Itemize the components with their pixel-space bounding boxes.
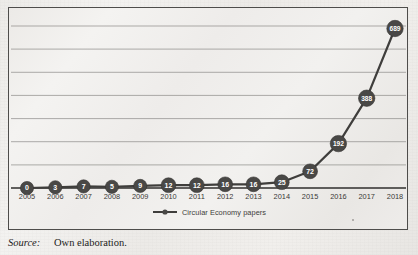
x-axis-tick-label: 2010 (160, 192, 176, 201)
x-axis-tick-label: 2017 (358, 192, 374, 201)
figure-caption: Source: Own elaboration. (8, 237, 410, 248)
data-point-label: 0 (25, 184, 29, 191)
x-axis-tick-label: 2014 (274, 192, 290, 201)
data-point-label: 3 (53, 184, 57, 191)
x-axis-tick-label: 2013 (245, 192, 261, 201)
legend-marker-icon (152, 207, 178, 217)
data-point-label: 16 (221, 181, 229, 188)
x-axis-tick-label: 2009 (132, 192, 148, 201)
chart-panel: 0200532006720075200892009122010122011162… (8, 7, 408, 230)
data-point-label: 192 (333, 140, 344, 147)
data-point-label: 388 (361, 95, 372, 102)
caption-source-text: Own elaboration. (54, 237, 127, 248)
scanned-page-background: 0200532006720075200892009122010122011162… (0, 0, 418, 255)
x-axis-tick-label: 2006 (47, 192, 63, 201)
data-point-label: 16 (250, 181, 258, 188)
chart-legend: Circular Economy papers (9, 207, 408, 217)
x-axis-tick-label: 2008 (104, 192, 120, 201)
data-point-label: 12 (193, 182, 201, 189)
caption-source-label: Source: (8, 237, 54, 248)
x-axis-tick-label: 2015 (302, 192, 318, 201)
data-point-label: 689 (389, 25, 400, 32)
legend-item-label: Circular Economy papers (182, 208, 266, 217)
data-point-label: 9 (138, 182, 142, 189)
data-point-label: 12 (165, 182, 173, 189)
data-point-label: 72 (306, 168, 314, 175)
line-chart-plot: 0200532006720075200892009122010122011162… (9, 8, 408, 230)
x-axis-tick-label: 2016 (330, 192, 346, 201)
x-axis-tick-label: 2005 (19, 192, 35, 201)
data-point-label: 7 (82, 183, 86, 190)
series-line-circular-economy-papers (27, 29, 395, 189)
x-axis-tick-label: 2011 (189, 192, 205, 201)
x-axis-tick-label: 2018 (387, 192, 403, 201)
data-point-label: 5 (110, 183, 114, 190)
scan-speck (352, 219, 354, 221)
x-axis-tick-label: 2012 (217, 192, 233, 201)
x-axis-tick-label: 2007 (75, 192, 91, 201)
data-point-label: 25 (278, 179, 286, 186)
